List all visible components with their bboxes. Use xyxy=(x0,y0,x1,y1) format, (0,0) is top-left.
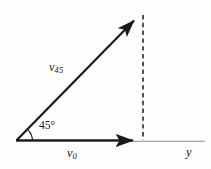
base-vector-label: v0 xyxy=(67,147,77,160)
resultant-vector-label: v45 xyxy=(49,61,63,74)
base-vector-label-subscript: 0 xyxy=(73,151,77,161)
resultant-vector-label-subscript: 45 xyxy=(55,65,64,75)
angle-arc xyxy=(28,129,33,141)
resultant-vector-label-base: v xyxy=(49,60,55,74)
vector-diagram: v45 v0 45° y xyxy=(0,0,211,169)
angle-label: 45° xyxy=(39,120,55,132)
resultant-vector-arrow xyxy=(16,21,134,141)
vector-diagram-canvas xyxy=(0,0,211,169)
base-vector-label-base: v xyxy=(67,146,73,160)
y-axis-label: y xyxy=(186,146,192,159)
